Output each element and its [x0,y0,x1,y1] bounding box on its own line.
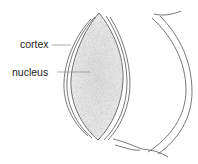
lens-diagram-svg [0,0,198,164]
nucleus-label: nucleus [12,67,48,78]
iris-arcs [148,11,192,154]
zonule-fibers [113,139,168,157]
lens-diagram: cortex nucleus [0,0,198,164]
cortex-label: cortex [20,39,49,50]
